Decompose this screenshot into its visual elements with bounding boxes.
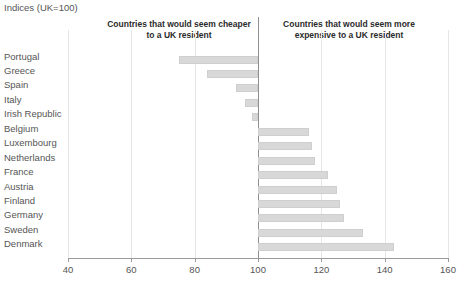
bar-denmark [258,243,394,251]
category-label-denmark: Denmark [4,238,43,249]
category-label-austria: Austria [4,181,34,192]
gridline-160 [448,30,449,258]
x-tick-label: 100 [250,264,266,275]
bar-greece [207,70,258,78]
bar-finland [258,200,340,208]
plot-area: 406080100120140160PortugalGreeceSpainIta… [0,0,464,290]
bar-portugal [179,56,258,64]
category-label-sweden: Sweden [4,224,38,235]
bar-belgium [258,128,309,136]
gridline-80 [195,30,196,258]
x-tick-label: 120 [313,264,329,275]
x-tick-label: 140 [377,264,393,275]
category-label-irish-republic: Irish Republic [4,108,62,119]
category-label-netherlands: Netherlands [4,152,55,163]
bar-italy [245,99,258,107]
category-label-luxembourg: Luxembourg [4,137,57,148]
bar-germany [258,214,344,222]
category-label-greece: Greece [4,65,35,76]
x-axis-line [68,258,448,259]
x-tick-label: 60 [126,264,137,275]
bar-austria [258,186,337,194]
x-tick-label: 40 [63,264,74,275]
gridline-140 [385,30,386,258]
bar-france [258,171,328,179]
gridline-120 [321,30,322,258]
gridline-60 [131,30,132,258]
bar-spain [236,84,258,92]
bar-irish-republic [252,113,258,121]
x-tick-160 [448,258,449,262]
bar-netherlands [258,157,315,165]
category-label-portugal: Portugal [4,51,39,62]
category-label-spain: Spain [4,79,28,90]
category-label-belgium: Belgium [4,123,38,134]
category-label-finland: Finland [4,195,35,206]
category-label-italy: Italy [4,94,21,105]
price-index-bar-chart: Indices (UK=100) Countries that would se… [0,0,464,290]
category-label-france: France [4,166,34,177]
bar-sweden [258,229,363,237]
x-tick-label: 160 [440,264,456,275]
bar-luxembourg [258,142,312,150]
category-label-germany: Germany [4,209,43,220]
x-tick-label: 80 [189,264,200,275]
gridline-40 [68,30,69,258]
